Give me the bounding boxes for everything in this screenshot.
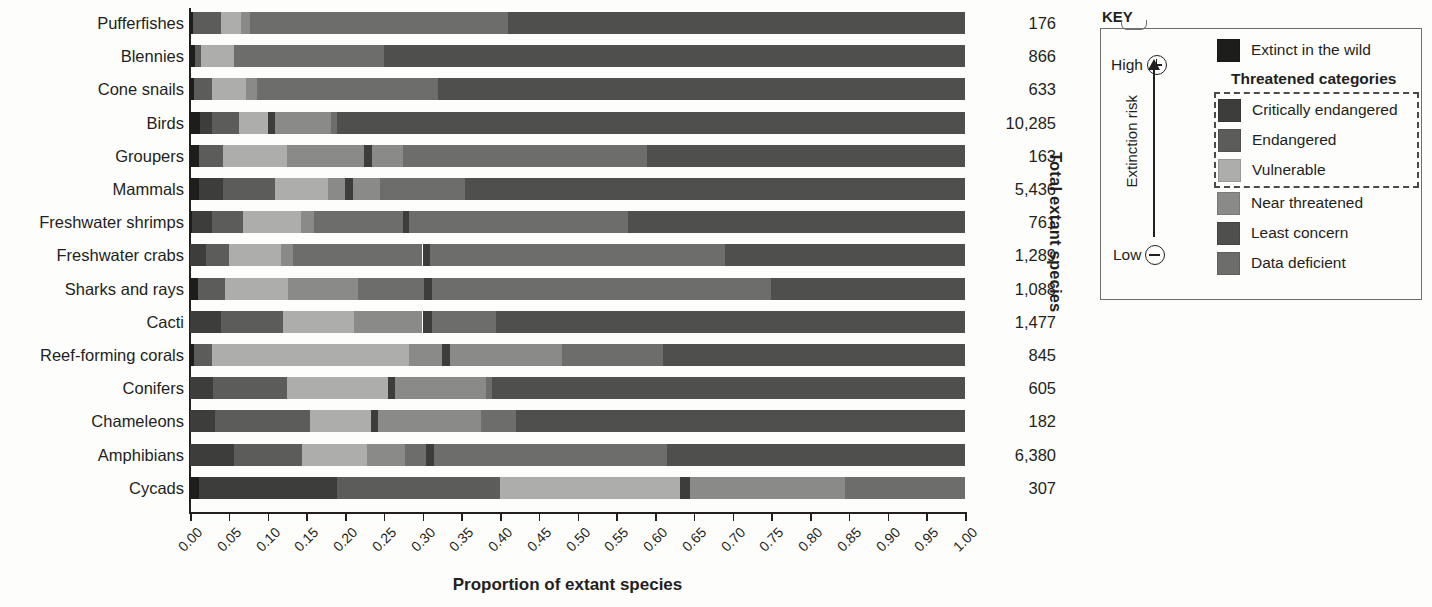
x-tick-label: 0.05 [206,524,244,562]
bar-segment-en [213,377,287,399]
bar-segment-en [194,78,212,100]
bar-segment-en [194,344,212,366]
legend-label: Endangered [1252,131,1336,149]
bar-segment-vu [243,211,301,233]
bar-segment-cr [190,377,213,399]
x-tick [616,512,618,521]
category-label: Freshwater shrimps [39,211,184,233]
legend-items: Extinct in the wild Threatened categorie… [1217,35,1419,278]
bar-segment-en [206,244,228,266]
bar-segment-dd [409,211,628,233]
row-total-value: 163 [978,145,1056,167]
bar-segment-ew [190,178,199,200]
legend-group-extinct: Extinct in the wild [1217,35,1419,65]
bar-segment-dd [380,178,465,200]
legend-swatch [1217,252,1240,275]
risk-arrow-icon [1153,69,1155,237]
bar-segment-cr [190,311,221,333]
category-label: Birds [146,112,184,134]
bar-segment-nt [450,344,562,366]
bar-segment-dd [358,278,424,300]
x-tick [810,512,812,521]
x-tick-label: 0.10 [245,524,283,562]
bar-segment-ew [190,112,200,134]
x-tick [461,512,463,521]
extinction-risk-scale: High Extinction risk Low [1105,33,1213,297]
bar-segment-cr [190,410,215,432]
category-label: Groupers [115,145,184,167]
row-total-value: 10,285 [978,112,1056,134]
legend-title: KEY [1102,8,1422,25]
x-tick-label: 0.65 [671,524,709,562]
category-label: Conifers [123,377,184,399]
x-tick [190,512,192,521]
legend-item[interactable]: Vulnerable [1218,155,1415,185]
legend-item[interactable]: Extinct in the wild [1217,35,1419,65]
bar-segment-vu [229,244,282,266]
bar-segment-ew [190,278,198,300]
bar-segment-nt [354,311,422,333]
bar-segment-lc [438,78,965,100]
bar-segment-lc [663,344,965,366]
bar-segment-vu [239,112,268,134]
bar-segment-nt [378,410,480,432]
bar-segment-vu [302,444,366,466]
bar-segment-en [199,145,224,167]
bar-segment-lc [628,211,965,233]
legend-swatch [1217,39,1240,62]
x-tick [345,512,347,521]
legend-swatch [1217,192,1240,215]
bar-segment-nt [690,477,845,499]
bar-segment-en [193,12,221,34]
bar-segment-en [337,477,500,499]
bar-segment-lc [384,45,965,67]
category-label: Sharks and rays [65,278,184,300]
bar-segment-cr [423,311,432,333]
legend-item[interactable]: Endangered [1218,125,1415,155]
category-label: Cycads [129,477,184,499]
legend-item[interactable]: Critically endangered [1218,95,1415,125]
x-tick [655,512,657,521]
bar-segment-cr [345,178,353,200]
x-tick-label: 0.90 [865,524,903,562]
bar-segment-lc [771,278,965,300]
bar-segment-dd [434,444,667,466]
legend: KEY High Extinction risk Low Extinct in … [1100,8,1422,300]
x-tick [229,512,231,521]
bar-segment-nt [353,178,380,200]
bar-segment-nt [395,377,486,399]
bar-segment-dd [234,45,384,67]
bar-segment-en [212,112,238,134]
x-tick-label: 0.70 [710,524,748,562]
bar-segment-vu [223,145,287,167]
x-tick-label: 0.00 [167,524,205,562]
risk-axis-label: Extinction risk [1123,95,1140,188]
legend-item[interactable]: Near threatened [1217,188,1419,218]
bar-segment-cr [199,477,337,499]
risk-low-label: Low [1113,245,1165,265]
legend-item[interactable]: Least concern [1217,218,1419,248]
chart-figure: PufferfishesBlenniesCone snailsBirdsGrou… [0,0,1432,607]
legend-swatch [1218,129,1241,152]
row-total-value: 182 [978,410,1056,432]
bar-segment-lc [516,410,966,432]
bar-segment-cr [426,444,434,466]
legend-swatch [1217,222,1240,245]
legend-box: High Extinction risk Low Extinct in the … [1100,28,1422,300]
bar-segment-lc [492,377,965,399]
x-tick-label: 0.80 [787,524,825,562]
bar-segment-dd [432,311,496,333]
bar-segment-lc [496,311,965,333]
category-label: Chameleons [91,410,184,432]
x-tick [306,512,308,521]
bar-segment-ew [190,477,199,499]
row-total-value: 1,289 [978,244,1056,266]
legend-item[interactable]: Data deficient [1217,248,1419,278]
legend-label: Vulnerable [1252,161,1326,179]
bar-segment-cr [680,477,690,499]
x-tick [268,512,270,521]
bar-row [0,410,1432,432]
x-tick-label: 0.25 [361,524,399,562]
bar-segment-en [198,278,225,300]
category-label: Cone snails [98,78,184,100]
